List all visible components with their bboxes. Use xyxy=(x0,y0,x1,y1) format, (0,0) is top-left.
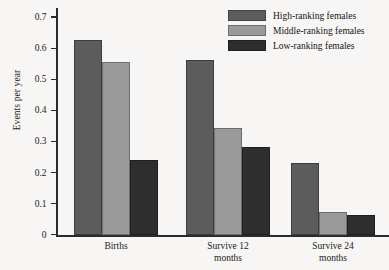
x-axis-category-label: Births xyxy=(66,241,166,253)
legend-swatch-icon xyxy=(228,40,266,51)
legend-item[interactable]: Middle-ranking females xyxy=(228,24,365,37)
legend: High-ranking femalesMiddle-ranking femal… xyxy=(228,9,365,52)
bar[interactable] xyxy=(347,215,375,235)
x-axis-category-label-line: Survive 12 xyxy=(178,241,278,253)
legend-label: High-ranking females xyxy=(273,11,356,21)
bar[interactable] xyxy=(319,212,347,235)
bar[interactable] xyxy=(291,163,319,236)
legend-swatch-icon xyxy=(228,25,266,36)
y-axis-tick-label: 0.5 xyxy=(35,74,47,84)
legend-label: Low-ranking females xyxy=(273,41,355,51)
x-axis-category-label-line: Births xyxy=(66,241,166,253)
y-axis-tick-label: 0.6 xyxy=(35,43,47,53)
bar[interactable] xyxy=(74,40,102,236)
bar-group xyxy=(74,8,158,235)
y-axis-tick-label: 0.1 xyxy=(35,199,47,209)
legend-label: Middle-ranking females xyxy=(273,26,365,36)
bar[interactable] xyxy=(130,160,158,235)
x-axis-category-label-line: Survive 24 xyxy=(283,241,383,253)
x-axis-category-label: Survive 24months xyxy=(283,241,383,264)
x-axis-category-label-line: months xyxy=(283,253,383,265)
bar[interactable] xyxy=(102,62,130,236)
bar[interactable] xyxy=(186,60,214,235)
y-axis-tick-label: 0 xyxy=(42,230,47,240)
legend-item[interactable]: High-ranking females xyxy=(228,9,365,22)
bar-chart: Events per year 00.10.20.30.40.50.60.7 B… xyxy=(0,0,389,270)
y-axis-tick-label: 0.7 xyxy=(35,12,47,22)
legend-swatch-icon xyxy=(228,10,266,21)
y-axis-title: Events per year xyxy=(12,45,22,155)
x-axis-category-label-line: months xyxy=(178,253,278,265)
x-axis-category-label: Survive 12months xyxy=(178,241,278,264)
bar[interactable] xyxy=(242,147,270,235)
y-axis-tick-label: 0.4 xyxy=(35,105,47,115)
y-axis-tick-label: 0.2 xyxy=(35,168,47,178)
x-axis-line xyxy=(56,235,389,237)
bar[interactable] xyxy=(214,128,242,235)
y-axis-tick-label: 0.3 xyxy=(35,136,47,146)
legend-item[interactable]: Low-ranking females xyxy=(228,39,365,52)
